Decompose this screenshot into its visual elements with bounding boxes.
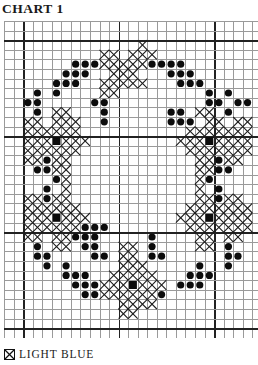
cross-stitch-icon bbox=[128, 69, 138, 79]
cross-stitch-icon bbox=[128, 271, 138, 281]
dot-stitch-icon bbox=[82, 61, 89, 68]
cross-stitch-icon bbox=[128, 261, 138, 271]
dot-stitch-icon bbox=[244, 99, 251, 106]
cross-stitch-icon bbox=[138, 299, 148, 309]
cross-stitch-icon bbox=[185, 146, 195, 156]
cross-stitch-chart-grid bbox=[4, 21, 258, 338]
cross-stitch-icon bbox=[61, 136, 71, 146]
cross-stitch-icon bbox=[176, 213, 186, 223]
dot-stitch-icon bbox=[215, 157, 222, 164]
dot-stitch-icon bbox=[148, 61, 155, 68]
dot-stitch-icon bbox=[148, 253, 155, 260]
dot-stitch-icon bbox=[234, 253, 241, 260]
square-stitch-icon bbox=[205, 214, 213, 222]
cross-stitch-icon bbox=[233, 203, 243, 213]
cross-stitch-icon bbox=[42, 127, 52, 137]
cross-stitch-icon bbox=[205, 194, 215, 204]
dot-stitch-icon bbox=[206, 99, 213, 106]
dot-stitch-icon bbox=[34, 109, 41, 116]
dot-stitch-icon bbox=[177, 80, 184, 87]
cross-stitch-icon bbox=[185, 127, 195, 137]
cross-stitch-icon bbox=[61, 175, 71, 185]
cross-stitch-icon bbox=[42, 136, 52, 146]
dot-stitch-icon bbox=[91, 291, 98, 298]
chart-title: CHART 1 bbox=[2, 1, 64, 17]
cross-stitch-icon bbox=[119, 69, 129, 79]
cross-stitch-icon bbox=[224, 203, 234, 213]
cross-stitch-icon bbox=[233, 194, 243, 204]
cross-stitch-icon bbox=[243, 146, 253, 156]
cross-stitch-icon bbox=[33, 127, 43, 137]
dot-stitch-icon bbox=[215, 185, 222, 192]
cross-stitch-icon bbox=[195, 242, 205, 252]
cross-stitch-icon bbox=[195, 107, 205, 117]
cross-stitch-icon bbox=[157, 280, 167, 290]
cross-stitch-icon bbox=[33, 203, 43, 213]
dot-stitch-icon bbox=[101, 109, 108, 116]
dot-stitch-icon bbox=[225, 109, 232, 116]
cross-stitch-icon bbox=[80, 136, 90, 146]
cross-stitch-icon bbox=[195, 155, 205, 165]
cross-stitch-icon bbox=[138, 40, 148, 50]
cross-stitch-icon bbox=[214, 127, 224, 137]
cross-stitch-icon bbox=[52, 155, 62, 165]
cross-stitch-icon bbox=[100, 290, 110, 300]
cross-stitch-icon bbox=[147, 271, 157, 281]
cross-stitch-icon bbox=[147, 299, 157, 309]
cross-stitch-icon bbox=[33, 155, 43, 165]
cross-stitch-icon bbox=[23, 194, 33, 204]
cross-stitch-icon bbox=[71, 117, 81, 127]
cross-stitch-icon bbox=[195, 175, 205, 185]
dot-stitch-icon bbox=[225, 243, 232, 250]
legend: LIGHT BLUE bbox=[4, 348, 94, 360]
dot-stitch-icon bbox=[187, 80, 194, 87]
dot-stitch-icon bbox=[34, 166, 41, 173]
cross-stitch-icon bbox=[23, 136, 33, 146]
cross-stitch-icon bbox=[33, 223, 43, 233]
dot-stitch-icon bbox=[177, 61, 184, 68]
dot-stitch-icon bbox=[24, 99, 31, 106]
cross-stitch-icon bbox=[23, 146, 33, 156]
cross-stitch-icon bbox=[205, 203, 215, 213]
cross-stitch-icon bbox=[224, 127, 234, 137]
dot-stitch-icon bbox=[196, 262, 203, 269]
cross-stitch-icon bbox=[176, 136, 186, 146]
dot-stitch-icon bbox=[177, 109, 184, 116]
dot-stitch-icon bbox=[53, 176, 60, 183]
cross-stitch-icon bbox=[61, 165, 71, 175]
cross-icon bbox=[4, 349, 15, 360]
cross-stitch-icon bbox=[243, 203, 253, 213]
dot-stitch-icon bbox=[206, 176, 213, 183]
dot-stitch-icon bbox=[187, 281, 194, 288]
cross-stitch-icon bbox=[119, 280, 129, 290]
square-stitch-icon bbox=[53, 214, 61, 222]
cross-stitch-icon bbox=[205, 155, 215, 165]
cross-stitch-icon bbox=[195, 146, 205, 156]
cross-stitch-icon bbox=[195, 136, 205, 146]
dot-stitch-icon bbox=[43, 157, 50, 164]
cross-stitch-icon bbox=[33, 194, 43, 204]
dot-stitch-icon bbox=[43, 195, 50, 202]
dot-stitch-icon bbox=[34, 99, 41, 106]
dot-stitch-icon bbox=[234, 99, 241, 106]
cross-stitch-icon bbox=[205, 107, 215, 117]
cross-stitch-icon bbox=[52, 107, 62, 117]
cross-stitch-icon bbox=[33, 146, 43, 156]
cross-stitch-icon bbox=[61, 194, 71, 204]
pattern-layer bbox=[4, 21, 258, 338]
dot-stitch-icon bbox=[82, 291, 89, 298]
cross-stitch-icon bbox=[100, 280, 110, 290]
cross-stitch-icon bbox=[52, 232, 62, 242]
cross-stitch-icon bbox=[128, 299, 138, 309]
cross-stitch-icon bbox=[71, 146, 81, 156]
dot-stitch-icon bbox=[177, 281, 184, 288]
cross-stitch-icon bbox=[224, 223, 234, 233]
cross-stitch-icon bbox=[138, 59, 148, 69]
cross-stitch-icon bbox=[147, 50, 157, 60]
cross-stitch-icon bbox=[61, 213, 71, 223]
dot-stitch-icon bbox=[196, 272, 203, 279]
cross-stitch-icon bbox=[33, 213, 43, 223]
cross-stitch-icon bbox=[109, 271, 119, 281]
cross-stitch-icon bbox=[233, 232, 243, 242]
cross-stitch-icon bbox=[214, 203, 224, 213]
